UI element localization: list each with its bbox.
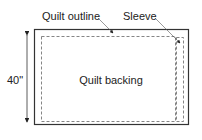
sleeve-rect [177, 38, 184, 122]
quilt-outline-label: Quilt outline [42, 10, 100, 22]
quilt-diagram: Quilt outline Sleeve Quilt backing 40" [0, 0, 202, 140]
sleeve-leader [155, 18, 180, 43]
dimension-label: 40" [7, 74, 23, 86]
quilt-outline-leader [98, 18, 113, 33]
sleeve-label: Sleeve [123, 10, 157, 22]
quilt-backing-label: Quilt backing [79, 74, 143, 86]
